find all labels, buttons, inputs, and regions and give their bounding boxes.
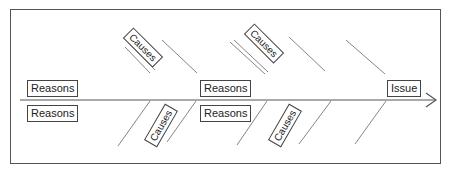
top-reason-box-1: Reasons — [27, 80, 78, 97]
bottom-reason-box-2: Reasons — [200, 105, 251, 122]
bottom-reason-box-1: Reasons — [27, 105, 78, 122]
top-reason-box-2: Reasons — [200, 80, 251, 97]
issue-box: Issue — [387, 80, 421, 97]
